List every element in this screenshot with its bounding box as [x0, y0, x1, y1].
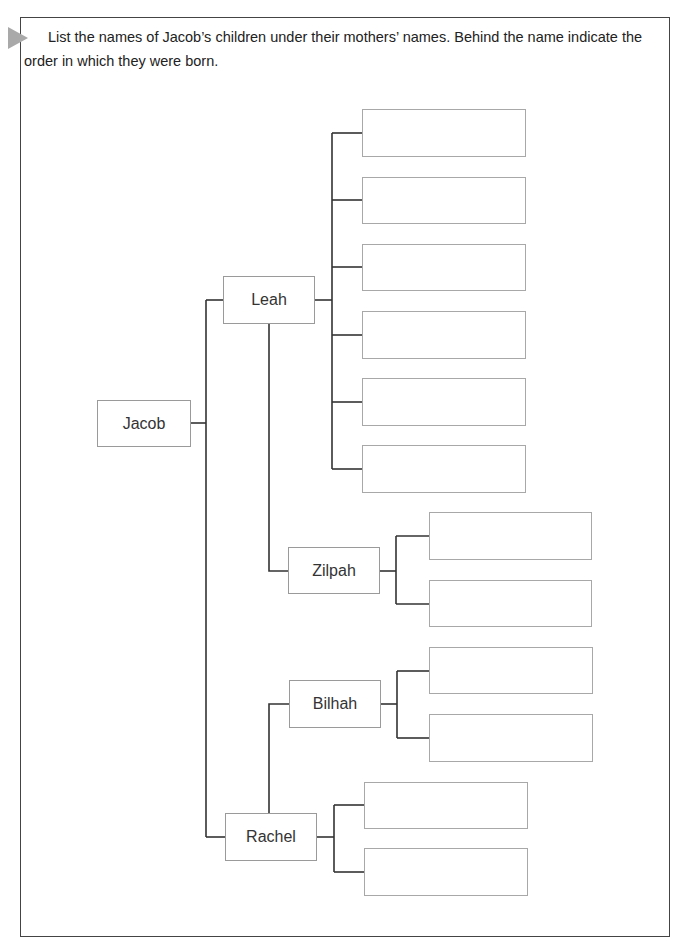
zilpah-child-answer-2[interactable] — [429, 580, 592, 627]
bilhah-child-answer-2[interactable] — [429, 714, 593, 762]
rachel-box: Rachel — [225, 813, 317, 861]
leah-child-answer-1[interactable] — [362, 109, 526, 157]
zilpah-box: Zilpah — [288, 547, 380, 594]
leah-child-answer-5[interactable] — [362, 378, 526, 426]
connector-rachel-bilhah — [269, 704, 289, 813]
zilpah-child-answer-1[interactable] — [429, 512, 592, 560]
rachel-child-answer-2[interactable] — [364, 848, 528, 896]
jacob-box: Jacob — [97, 400, 191, 447]
bilhah-box: Bilhah — [289, 680, 381, 728]
leah-child-answer-6[interactable] — [362, 445, 526, 493]
rachel-child-answer-1[interactable] — [364, 782, 528, 829]
bilhah-child-answer-1[interactable] — [429, 647, 593, 694]
leah-child-answer-2[interactable] — [362, 177, 526, 224]
leah-box: Leah — [223, 276, 315, 324]
leah-child-answer-3[interactable] — [362, 244, 526, 291]
family-tree-connectors — [0, 0, 688, 952]
connector-leah-zilpah — [269, 324, 288, 571]
leah-child-answer-4[interactable] — [362, 311, 526, 359]
